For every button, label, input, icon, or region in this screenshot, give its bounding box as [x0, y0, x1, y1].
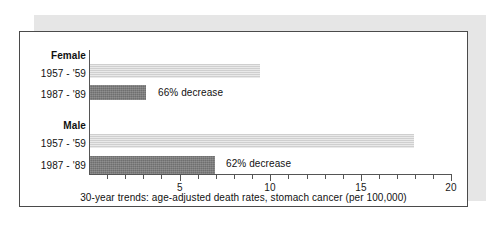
group-label-female: Female [20, 50, 86, 61]
x-tick-19 [433, 175, 434, 179]
x-tick-2 [125, 175, 126, 179]
x-tick-13 [325, 175, 326, 179]
x-tick-7 [216, 175, 217, 179]
x-tick-17 [397, 175, 398, 179]
figure-container: Female 1957 - '59 1987 - '89 Male 1957 -… [0, 0, 497, 226]
x-tick-10 [270, 175, 271, 181]
chart-caption: 30-year trends: age-adjusted death rates… [20, 192, 467, 203]
bar-female-1957-1959 [90, 64, 260, 78]
annotation-male-decrease: 62% decrease [226, 158, 291, 169]
row-label-female-1987: 1987 - '89 [20, 89, 86, 100]
x-tick-9 [252, 175, 253, 179]
row-label-female-1957: 1957 - '59 [20, 68, 86, 79]
bar-female-1987-1989 [90, 85, 146, 100]
row-label-male-1957: 1957 - '59 [20, 138, 86, 149]
bar-male-1987-1989 [90, 156, 215, 174]
x-tick-14 [343, 175, 344, 179]
x-tick-20 [451, 175, 452, 181]
x-tick-16 [379, 175, 380, 179]
group-label-male: Male [20, 120, 86, 131]
x-tick-15 [361, 175, 362, 181]
annotation-female-decrease: 66% decrease [158, 87, 223, 98]
x-tick-5 [180, 175, 181, 181]
category-label-column: Female 1957 - '59 1987 - '89 Male 1957 -… [20, 32, 86, 206]
x-tick-4 [161, 175, 162, 179]
x-tick-8 [234, 175, 235, 179]
x-tick-1 [107, 175, 108, 179]
x-tick-3 [143, 175, 144, 179]
x-tick-11 [288, 175, 289, 179]
row-label-male-1987: 1987 - '89 [20, 160, 86, 171]
x-tick-12 [307, 175, 308, 179]
bar-male-1957-1959 [90, 134, 414, 148]
x-tick-6 [198, 175, 199, 179]
plot-area: Female 1957 - '59 1987 - '89 Male 1957 -… [20, 32, 467, 206]
x-tick-18 [415, 175, 416, 179]
chart-panel: Female 1957 - '59 1987 - '89 Male 1957 -… [19, 31, 468, 207]
